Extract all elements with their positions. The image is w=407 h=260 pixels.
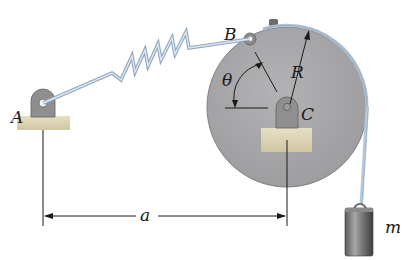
pulley-spring-diagram: A B C θ R a m <box>0 0 407 260</box>
label-a: A <box>9 107 23 127</box>
dimension-arrow-right <box>277 213 286 219</box>
mass-body <box>345 208 373 256</box>
label-c: C <box>301 104 314 124</box>
label-b: B <box>223 24 237 44</box>
label-r: R <box>290 62 304 82</box>
label-m: m <box>385 217 401 237</box>
label-theta: θ <box>222 70 232 90</box>
ground-block-a <box>17 116 70 130</box>
label-dimension-a: a <box>140 205 150 225</box>
bracket-c <box>276 97 298 128</box>
pin-c <box>283 103 290 110</box>
dimension-arrow-left <box>44 213 53 219</box>
mass-top-rim <box>345 208 373 212</box>
